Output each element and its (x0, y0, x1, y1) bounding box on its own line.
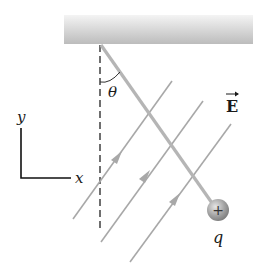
field-arrowheads (111, 151, 180, 206)
x-axis-label: x (75, 169, 84, 187)
y-axis-label: y (16, 108, 26, 126)
field-label: E (226, 92, 239, 117)
physics-diagram: + θ E q y x (0, 0, 260, 275)
ceiling (64, 15, 253, 44)
electric-field-lines (73, 81, 231, 262)
string (101, 45, 212, 203)
vector-arrowhead (235, 92, 239, 97)
axes-lines (21, 128, 71, 178)
arrow-up-icon (169, 193, 180, 206)
charge-label: q (213, 228, 223, 247)
arrow-up-icon (111, 151, 122, 164)
charge-sign: + (212, 202, 224, 218)
field-line-2 (101, 101, 203, 242)
coordinate-axes: y x (16, 108, 84, 187)
field-symbol: E (226, 97, 238, 116)
field-line-1 (73, 81, 172, 219)
theta-arc (100, 72, 120, 82)
theta-label: θ (108, 83, 117, 101)
